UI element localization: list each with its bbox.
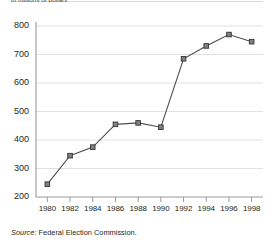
data-point-marker[interactable]: [181, 56, 186, 61]
data-point-marker[interactable]: [227, 32, 232, 37]
chart-subtitle: In millions of dollars: [11, 0, 68, 3]
source-value: Federal Election Commission.: [39, 228, 137, 237]
y-axis-tick-label: 700: [1, 49, 29, 59]
data-line: [47, 35, 251, 185]
data-point-marker[interactable]: [113, 122, 118, 127]
data-point-marker[interactable]: [159, 125, 164, 130]
data-point-marker[interactable]: [136, 121, 141, 126]
data-point-marker[interactable]: [204, 44, 209, 49]
plot-area: [0, 8, 274, 220]
data-point-marker[interactable]: [90, 145, 95, 150]
line-chart: [0, 8, 274, 220]
y-axis-tick-label: 500: [1, 106, 29, 116]
y-axis-tick-label: 800: [1, 20, 29, 30]
y-axis-tick-label: 300: [1, 163, 29, 173]
source-note: Source: Federal Election Commission.: [11, 228, 137, 237]
figure-container: In millions of dollars Source: Federal E…: [0, 0, 274, 243]
y-axis-tick-label: 600: [1, 77, 29, 87]
source-label: Source:: [11, 228, 36, 237]
data-point-marker[interactable]: [68, 153, 73, 158]
x-axis-tick-label: 1998: [235, 204, 269, 213]
data-point-marker[interactable]: [249, 39, 254, 44]
y-axis-tick-label: 200: [1, 191, 29, 201]
data-point-marker[interactable]: [45, 182, 50, 187]
y-axis-tick-label: 400: [1, 134, 29, 144]
